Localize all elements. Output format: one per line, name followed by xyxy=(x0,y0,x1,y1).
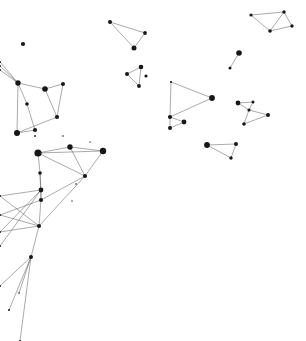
edges-group xyxy=(0,12,292,341)
edge-line xyxy=(0,215,39,226)
edge-line xyxy=(207,144,236,145)
node-point xyxy=(39,198,43,202)
node-point xyxy=(168,115,172,119)
node-point xyxy=(236,50,242,56)
edge-line xyxy=(127,67,141,74)
node-point xyxy=(89,141,90,142)
node-point xyxy=(125,72,129,76)
edge-line xyxy=(41,176,85,200)
node-point xyxy=(236,101,241,106)
node-point xyxy=(25,102,29,106)
edge-line xyxy=(70,147,103,151)
node-point xyxy=(242,122,246,126)
node-point xyxy=(282,10,285,13)
node-point xyxy=(268,29,272,33)
node-point xyxy=(132,46,137,51)
edge-line xyxy=(244,110,249,124)
edge-line xyxy=(171,82,212,98)
node-point xyxy=(108,20,112,24)
edge-line xyxy=(0,200,41,215)
nodes-group xyxy=(0,10,294,341)
edge-line xyxy=(0,190,41,232)
edge-line xyxy=(249,110,268,115)
node-point xyxy=(144,74,147,77)
node-point xyxy=(229,67,232,70)
edge-line xyxy=(0,70,18,83)
edge-line xyxy=(284,12,292,26)
node-point xyxy=(37,224,41,228)
edge-line xyxy=(31,226,39,257)
node-point xyxy=(61,82,65,86)
node-point xyxy=(8,309,10,311)
node-point xyxy=(14,130,20,136)
node-point xyxy=(21,42,25,46)
edge-line xyxy=(251,12,284,15)
edge-line xyxy=(139,67,141,86)
edge-line xyxy=(0,66,18,83)
edge-line xyxy=(17,83,18,133)
node-point xyxy=(15,80,20,85)
edge-line xyxy=(134,33,145,48)
node-point xyxy=(34,135,36,137)
constellation-svg xyxy=(0,0,306,341)
node-point xyxy=(229,156,232,159)
node-point xyxy=(0,214,1,216)
edge-line xyxy=(45,89,57,117)
node-point xyxy=(18,292,20,294)
node-point xyxy=(33,128,37,132)
node-point xyxy=(34,149,41,156)
edge-line xyxy=(45,84,63,89)
node-point xyxy=(252,101,255,104)
node-point xyxy=(139,65,144,70)
edge-line xyxy=(0,62,18,83)
node-point xyxy=(143,31,147,35)
node-point xyxy=(204,142,210,148)
edge-line xyxy=(18,83,45,89)
node-point xyxy=(247,108,250,111)
constellation-canvas-container xyxy=(0,0,306,341)
edge-line xyxy=(207,145,231,158)
edge-line xyxy=(127,74,139,86)
node-point xyxy=(170,81,172,83)
node-point xyxy=(209,95,215,101)
edge-line xyxy=(170,98,212,117)
node-point xyxy=(182,120,187,125)
node-point xyxy=(38,171,42,175)
edge-line xyxy=(231,144,236,158)
node-point xyxy=(42,86,48,92)
edge-line xyxy=(0,190,41,246)
node-point xyxy=(71,200,72,201)
node-point xyxy=(234,142,238,146)
node-point xyxy=(55,115,59,119)
node-point xyxy=(75,183,77,185)
edge-line xyxy=(39,176,85,226)
node-point xyxy=(39,188,44,193)
node-point xyxy=(62,135,64,137)
node-point xyxy=(29,255,33,259)
edge-line xyxy=(0,190,41,196)
edge-line xyxy=(39,200,41,226)
edge-line xyxy=(244,115,268,124)
node-point xyxy=(266,113,270,117)
node-point xyxy=(137,84,141,88)
edge-line xyxy=(0,226,39,232)
edge-line xyxy=(170,82,171,117)
node-point xyxy=(100,148,106,154)
edge-line xyxy=(251,15,270,31)
node-point xyxy=(168,126,172,130)
edge-line xyxy=(85,151,103,176)
edge-line xyxy=(38,153,85,176)
edge-line xyxy=(57,84,63,117)
node-point xyxy=(67,144,72,149)
node-point xyxy=(249,13,252,16)
node-point xyxy=(290,24,293,27)
edge-line xyxy=(18,83,27,104)
node-point xyxy=(83,174,87,178)
